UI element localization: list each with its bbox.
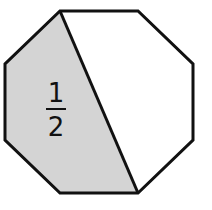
fraction-denominator: 2: [48, 112, 65, 142]
fraction-numerator: 1: [48, 78, 65, 108]
diagram-svg: 1 2: [0, 0, 212, 210]
octagon-fraction-diagram: 1 2: [0, 0, 212, 210]
